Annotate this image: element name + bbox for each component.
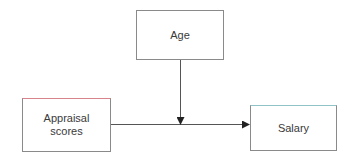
node-age: Age bbox=[136, 10, 224, 60]
node-salary-label: Salary bbox=[278, 122, 309, 135]
node-appraisal-scores-label: Appraisal scores bbox=[44, 112, 90, 138]
node-salary: Salary bbox=[250, 105, 337, 151]
node-appraisal-scores: Appraisal scores bbox=[22, 98, 111, 152]
node-age-label: Age bbox=[170, 29, 190, 42]
